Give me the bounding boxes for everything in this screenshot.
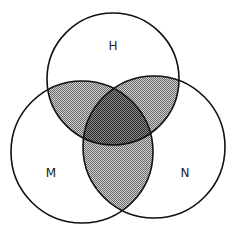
label-n: N bbox=[181, 166, 190, 180]
venn-diagram: H M N bbox=[0, 0, 235, 235]
label-h: H bbox=[108, 39, 117, 53]
label-m: M bbox=[46, 166, 56, 180]
